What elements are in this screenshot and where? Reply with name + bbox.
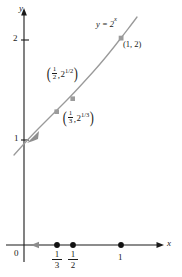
- x-axis-limit-arrow: [31, 242, 57, 248]
- point-label-one-third: ( 1 3 , 2 1/3 ): [62, 110, 95, 126]
- curve-direction-arrow: [27, 131, 39, 143]
- close-paren: ): [90, 111, 94, 125]
- origin-label: 0: [14, 249, 19, 258]
- x-tick-label-one-third: 1 3: [49, 250, 65, 270]
- numerator: 1: [49, 250, 65, 259]
- denominator: 3: [52, 259, 62, 270]
- numerator: 1: [68, 110, 74, 117]
- close-paren: ): [74, 67, 78, 81]
- x-fraction: 1 2: [52, 66, 58, 82]
- x-axis: [6, 242, 164, 248]
- y-exponent: 1/3: [81, 112, 89, 119]
- numerator: 1: [65, 250, 81, 259]
- numerator: 1: [52, 66, 58, 73]
- denominator: 2: [52, 73, 58, 81]
- y-tick-label-2: 2: [13, 34, 18, 43]
- x-tick-label-1: 1: [118, 253, 123, 262]
- plot-canvas: [0, 0, 182, 277]
- graph-figure: y x 2 1 0 1 3 1 2 1 y = 2x (1, 2) ( 1 2 …: [0, 0, 182, 277]
- denominator: 3: [68, 117, 74, 125]
- denominator: 2: [68, 259, 78, 270]
- curve-equation-label: y = 2x: [96, 18, 117, 28]
- x-fraction: 1 3: [68, 110, 74, 126]
- point-label-one-two: (1, 2): [123, 40, 141, 49]
- open-paren: (: [47, 67, 51, 81]
- y-tick-marks: [21, 40, 29, 140]
- equation-base: y = 2: [96, 19, 114, 29]
- y-axis: [21, 8, 27, 262]
- x-axis-label: x: [167, 239, 171, 248]
- exponential-curve: [14, 17, 137, 155]
- equation-exponent: x: [114, 15, 117, 22]
- x-tick-label-one-half: 1 2: [65, 250, 81, 270]
- y-tick-label-1: 1: [14, 134, 19, 143]
- point-label-one-half: ( 1 2 , 2 1/2 ): [46, 66, 79, 82]
- open-paren: (: [63, 111, 67, 125]
- y-axis-label: y: [19, 4, 23, 13]
- y-exponent: 1/2: [65, 68, 73, 75]
